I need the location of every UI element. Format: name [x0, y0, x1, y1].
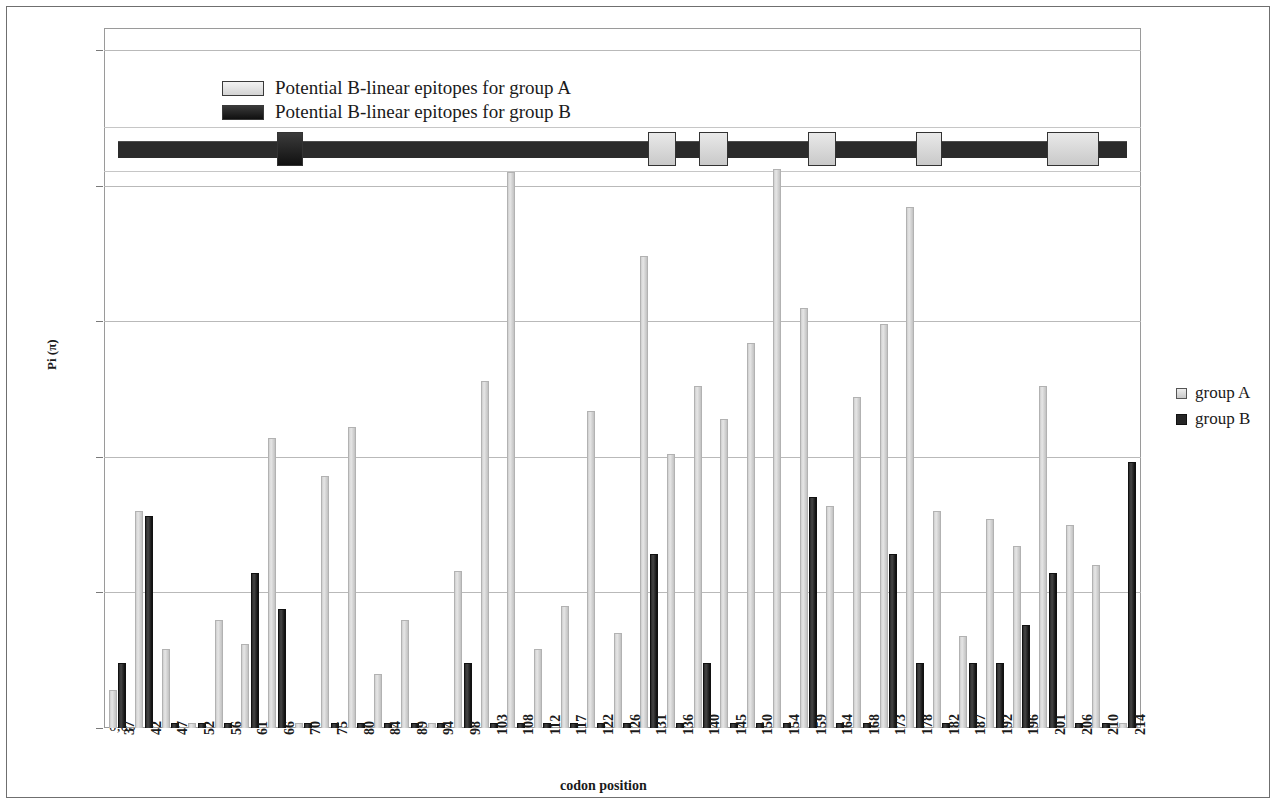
x-axis-tick-label: 182 [947, 714, 963, 735]
top-legend-label-group-a: Potential B-linear epitopes for group A [275, 77, 571, 99]
x-axis-title: codon position [560, 778, 647, 794]
bar-group-a [640, 256, 648, 728]
bar-group-a [162, 649, 170, 728]
x-axis-tick-label: 140 [707, 714, 723, 735]
x-axis-tick-label: 150 [760, 714, 776, 735]
x-axis-tick-label: 80 [362, 721, 378, 735]
bar-group-b [1049, 573, 1057, 728]
x-axis-tick-label: 187 [973, 714, 989, 735]
x-axis-tick-label: 42 [149, 721, 165, 735]
bar-group-b [145, 516, 153, 728]
bar-group-a [1066, 525, 1074, 728]
right-legend: group A group B [1176, 380, 1250, 432]
bar-group-b [650, 554, 658, 728]
right-legend-label-group-b: group B [1195, 409, 1250, 429]
bar-group-a [587, 411, 595, 728]
bar-group-a [321, 476, 329, 728]
legend-marker-group-a-icon [1176, 388, 1187, 399]
x-axis-tick-label: 210 [1106, 714, 1122, 735]
x-axis-tick-label: 84 [388, 721, 404, 735]
bar-group-a [348, 427, 356, 728]
x-axis-tick-label: 108 [521, 714, 537, 735]
bar-group-a [241, 644, 249, 728]
bar-group-a [986, 519, 994, 728]
top-legend-item-group-b: Potential B-linear epitopes for group B [222, 100, 571, 124]
bar-group-a [374, 674, 382, 728]
x-axis-tick-label: 112 [548, 715, 564, 735]
x-axis-tick-label: 206 [1080, 714, 1096, 735]
bar-group-a [507, 172, 515, 728]
bar-group-b [251, 573, 259, 728]
bar-series-container [104, 28, 1141, 728]
y-axis-label: Pi (π) [44, 339, 60, 370]
right-legend-item-group-b: group B [1176, 406, 1250, 432]
y-axis-tick-mark [96, 186, 103, 187]
x-axis-tick-label: 145 [734, 714, 750, 735]
bar-group-b [464, 663, 472, 728]
x-axis-tick-labels: 3742475256616670758084899498103108112117… [104, 732, 1141, 778]
bar-group-a [1013, 546, 1021, 728]
bar-group-a [880, 324, 888, 728]
x-axis-tick-label: 52 [202, 721, 218, 735]
x-axis-tick-label: 94 [441, 721, 457, 735]
bar-group-b [1128, 462, 1136, 728]
x-axis-tick-label: 117 [574, 715, 590, 735]
bar-group-a [773, 169, 781, 728]
x-axis-tick-label: 214 [1133, 714, 1149, 735]
x-axis-tick-label: 75 [335, 721, 351, 735]
x-axis-tick-label: 201 [1053, 714, 1069, 735]
x-axis-tick-label: 136 [681, 714, 697, 735]
bar-group-a [401, 620, 409, 728]
y-axis-tick-mark [96, 321, 103, 322]
x-axis-tick-label: 168 [867, 714, 883, 735]
x-axis-tick-label: 159 [814, 714, 830, 735]
bar-group-a [215, 620, 223, 728]
y-axis-tick-mark [96, 728, 103, 729]
legend-marker-group-b-icon [1176, 414, 1187, 425]
x-axis-tick-label: 131 [654, 714, 670, 735]
top-legend-item-group-a: Potential B-linear epitopes for group A [222, 76, 571, 100]
bar-group-a [906, 207, 914, 728]
x-axis-tick-label: 164 [840, 714, 856, 735]
x-axis-tick-label: 37 [122, 721, 138, 735]
bar-group-a [747, 343, 755, 728]
x-axis-tick-label: 196 [1026, 714, 1042, 735]
x-axis-tick-label: 178 [920, 714, 936, 735]
bar-group-b [278, 609, 286, 728]
bar-group-a [933, 511, 941, 728]
y-axis-tick-mark [96, 50, 103, 51]
bar-group-a [800, 308, 808, 728]
x-axis-tick-label: 61 [255, 721, 271, 735]
bar-group-a [268, 438, 276, 728]
right-legend-item-group-a: group A [1176, 380, 1250, 406]
x-axis-tick-label: 98 [468, 721, 484, 735]
x-axis-tick-label: 66 [282, 721, 298, 735]
bar-group-a [561, 606, 569, 728]
bar-group-a [454, 571, 462, 728]
x-axis-tick-label: 89 [415, 721, 431, 735]
x-axis-tick-label: 154 [787, 714, 803, 735]
bar-group-a [667, 454, 675, 728]
bar-group-a [694, 386, 702, 728]
bar-group-a [481, 381, 489, 728]
bar-group-a [826, 506, 834, 728]
x-axis-tick-label: 122 [601, 714, 617, 735]
bar-group-b [1022, 625, 1030, 728]
bar-group-a [1039, 386, 1047, 728]
y-axis-tick-mark [96, 457, 103, 458]
bar-group-a [853, 397, 861, 728]
x-axis-tick-label: 192 [1000, 714, 1016, 735]
bar-group-b [118, 663, 126, 728]
plot-area: Potential B-linear epitopes for group A … [104, 28, 1141, 728]
x-axis-tick-label: 103 [495, 714, 511, 735]
top-legend-label-group-b: Potential B-linear epitopes for group B [275, 101, 571, 123]
x-axis-tick-label: 70 [308, 721, 324, 735]
x-axis-tick-label: 56 [229, 721, 245, 735]
bar-group-a [1092, 565, 1100, 728]
bar-group-a [720, 419, 728, 728]
legend-swatch-group-a-icon [222, 81, 264, 96]
y-axis-tick-mark [96, 592, 103, 593]
x-axis-tick-label: 173 [893, 714, 909, 735]
bar-group-a [135, 511, 143, 728]
bar-group-b [889, 554, 897, 728]
